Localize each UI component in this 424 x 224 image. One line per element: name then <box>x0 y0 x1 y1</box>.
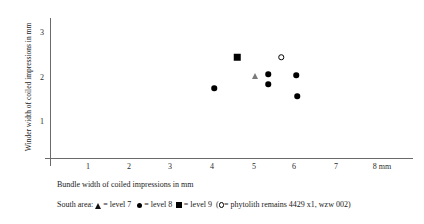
data-point-level-8 <box>265 71 271 77</box>
x-tick-label-7: 7 <box>334 162 338 172</box>
data-point-level-8 <box>265 81 271 87</box>
legend-triangle-icon <box>95 203 101 209</box>
x-axis-line <box>45 158 413 159</box>
legend-open-circle-icon <box>219 202 225 208</box>
legend-square-icon <box>176 202 182 208</box>
data-point-level-7 <box>252 73 258 79</box>
data-point-phytolith <box>278 54 284 60</box>
x-tick-label-5: 5 <box>252 162 256 172</box>
data-point-level-8 <box>293 72 299 78</box>
data-point-level-8 <box>211 85 217 91</box>
legend-label-level-9: = level 9 ( <box>182 199 219 211</box>
x-tick-label-1: 1 <box>86 162 90 172</box>
y-axis-title: Winder width of coiled impressions in mm <box>24 12 34 162</box>
x-axis-title: Bundle width of coiled impressions in mm <box>57 179 193 190</box>
chart-legend: South area: = level 7 = level 8 = level … <box>57 199 351 211</box>
y-axis-line <box>50 18 51 166</box>
legend-label-level-7: = level 7 <box>101 199 137 211</box>
legend-prefix: South area: <box>57 199 95 211</box>
legend-label-phytolith: = phytolith remains 4429 x1, wzw 002) <box>224 199 351 211</box>
x-tick-label-4: 4 <box>210 162 214 172</box>
legend-label-level-8: = level 8 <box>142 199 176 211</box>
legend-circle-icon <box>137 203 142 208</box>
x-tick-label-3: 3 <box>168 162 172 172</box>
data-point-level-8 <box>294 93 300 99</box>
x-tick-label-2: 2 <box>127 162 131 172</box>
data-point-level-9 <box>234 54 241 61</box>
scatter-plot-figure: 1 2 3 4 5 6 7 8 mm 1 2 3 Winder width of… <box>0 0 424 224</box>
x-tick-label-8-mm: 8 mm <box>373 162 391 172</box>
x-tick-label-6: 6 <box>292 162 296 172</box>
plot-area: 1 2 3 4 5 6 7 8 mm 1 2 3 Winder width of… <box>0 0 424 170</box>
